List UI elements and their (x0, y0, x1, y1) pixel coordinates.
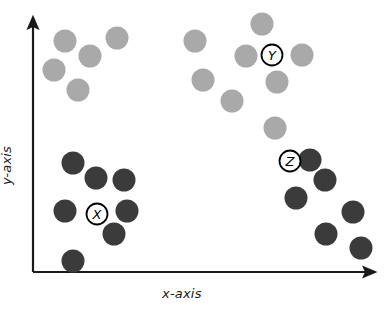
data-point (43, 59, 66, 82)
data-point (314, 169, 337, 192)
data-point (235, 45, 258, 68)
data-point (285, 187, 308, 210)
data-point (192, 69, 215, 92)
scatter-plot-figure: XYZ x-axis y-axis (0, 0, 389, 313)
data-point (54, 30, 77, 53)
y-axis-label: y-axis (0, 146, 14, 185)
annotation-z: Z (280, 151, 301, 172)
data-point (266, 71, 289, 94)
data-point (103, 223, 126, 246)
data-point (264, 117, 287, 140)
data-point (299, 149, 322, 172)
annotation-y: Y (262, 45, 283, 66)
data-point (79, 45, 102, 68)
data-point (54, 200, 77, 223)
data-point (291, 44, 314, 67)
annotation-letter: Y (268, 48, 277, 63)
data-point (350, 237, 373, 260)
x-axis-label: x-axis (162, 286, 202, 301)
data-point (116, 200, 139, 223)
data-point (67, 79, 90, 102)
data-point (251, 13, 274, 36)
data-point (221, 90, 244, 113)
data-point (62, 152, 85, 175)
data-points (43, 13, 373, 273)
data-point (184, 30, 207, 53)
data-point (113, 169, 136, 192)
annotation-x: X (87, 204, 108, 225)
data-point (62, 250, 85, 273)
annotation-letter: X (92, 207, 103, 222)
data-point (342, 201, 365, 224)
data-point (315, 223, 338, 246)
data-point (85, 167, 108, 190)
plot-canvas: XYZ (0, 0, 389, 313)
data-point (106, 27, 129, 50)
annotation-letter: Z (285, 154, 296, 169)
